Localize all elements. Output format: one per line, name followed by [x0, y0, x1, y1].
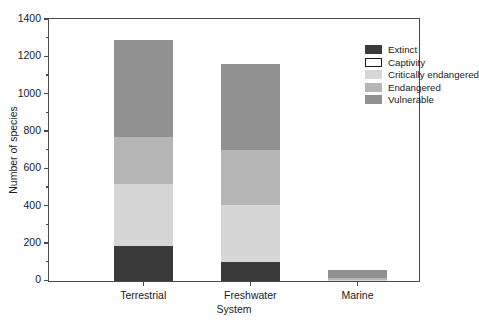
y-tick-label: 600 [23, 161, 41, 173]
y-tick-label: 1200 [18, 49, 41, 61]
bar-segment-freshwater-vulnerable[interactable] [221, 64, 280, 150]
bar-segment-freshwater-extinct[interactable] [221, 262, 280, 281]
x-tick-mark [143, 281, 144, 286]
y-tick-label: 1000 [18, 87, 41, 99]
plot-inner: 0200400600800100012001400 TerrestrialFre… [49, 19, 419, 281]
x-tick-mark [357, 281, 358, 286]
legend-swatch-icon [365, 45, 382, 54]
legend-item-label: Critically endangered [388, 69, 479, 80]
y-tick-label: 800 [23, 124, 41, 136]
bar-freshwater[interactable] [221, 20, 280, 281]
legend-swatch-icon [365, 95, 382, 104]
y-tick-mark [44, 130, 49, 131]
y-tick-mark [44, 205, 49, 206]
y-tick-mark [44, 18, 49, 19]
y-minor-tick-mark [46, 186, 49, 187]
bar-segment-freshwater-critically-endangered[interactable] [221, 205, 280, 262]
bar-terrestrial[interactable] [114, 20, 173, 281]
x-tick-mark [250, 281, 251, 286]
y-axis-title: Number of species [7, 90, 19, 210]
y-tick-mark [44, 242, 49, 243]
y-minor-tick-mark [46, 149, 49, 150]
x-axis-title: System [48, 303, 420, 315]
legend-swatch-icon [365, 70, 382, 79]
legend-item-label: Captivity [388, 57, 425, 68]
y-tick-mark [44, 56, 49, 57]
bar-segment-terrestrial-critically-endangered[interactable] [114, 184, 173, 246]
legend-item-extinct[interactable]: Extinct [365, 44, 479, 55]
y-tick-label: 0 [35, 273, 41, 285]
bar-segment-terrestrial-vulnerable[interactable] [114, 40, 173, 137]
bar-segment-marine-endangered[interactable] [328, 278, 387, 280]
y-minor-tick-mark [46, 224, 49, 225]
y-tick-label: 1400 [18, 12, 41, 24]
bar-segment-freshwater-endangered[interactable] [221, 150, 280, 205]
y-minor-tick-mark [46, 112, 49, 113]
x-tick-label: Marine [341, 289, 373, 301]
y-minor-tick-mark [46, 74, 49, 75]
legend-swatch-icon [365, 83, 382, 92]
legend-item-label: Vulnerable [388, 94, 434, 105]
chart-legend: ExtinctCaptivityCritically endangeredEnd… [365, 44, 479, 105]
y-tick-label: 200 [23, 236, 41, 248]
bar-segment-marine-vulnerable[interactable] [328, 270, 387, 278]
legend-item-captivity[interactable]: Captivity [365, 57, 479, 68]
plot-area: 0200400600800100012001400 TerrestrialFre… [48, 18, 420, 282]
x-tick-label: Terrestrial [120, 289, 166, 301]
bar-segment-terrestrial-endangered[interactable] [114, 137, 173, 184]
bar-segment-terrestrial-extinct[interactable] [114, 246, 173, 281]
legend-swatch-icon [365, 58, 382, 67]
y-tick-mark [44, 280, 49, 281]
x-tick-label: Freshwater [224, 289, 277, 301]
y-minor-tick-mark [46, 261, 49, 262]
legend-item-endangered[interactable]: Endangered [365, 82, 479, 93]
legend-item-label: Extinct [388, 44, 417, 55]
y-tick-mark [44, 168, 49, 169]
bar-segment-marine-critically-endangered[interactable] [328, 280, 387, 281]
y-minor-tick-mark [46, 37, 49, 38]
legend-item-critically-endangered[interactable]: Critically endangered [365, 69, 479, 80]
legend-item-vulnerable[interactable]: Vulnerable [365, 94, 479, 105]
y-tick-mark [44, 93, 49, 94]
legend-item-label: Endangered [388, 82, 441, 93]
y-tick-label: 400 [23, 199, 41, 211]
